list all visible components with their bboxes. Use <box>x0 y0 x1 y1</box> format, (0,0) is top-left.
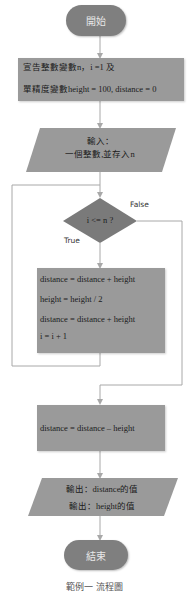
loop-line-2: height = height / 2 <box>40 294 162 305</box>
end-label: 結束 <box>86 548 106 563</box>
start-label: 開始 <box>86 13 106 28</box>
output-text: 輸出：distance的值 輸出：height的值 <box>40 482 164 513</box>
false-label: False <box>130 200 149 209</box>
loop-body-process-box: distance = distance + height height = he… <box>37 268 165 353</box>
input-text: 輸入： 一個整數,並存入n <box>40 135 160 161</box>
input-line-1: 輸入： <box>40 135 160 148</box>
output-line-2: 輸出：height的值 <box>40 499 164 513</box>
declare-process-box: 宣告整數變數n，i =1 及 單精度變數height = 100, distan… <box>18 58 184 101</box>
loop-line-1: distance = distance + height <box>40 274 162 285</box>
declare-line-1: 宣告整數變數n，i =1 及 <box>23 62 179 73</box>
input-line-2: 一個整數,並存入n <box>40 148 160 161</box>
true-label: True <box>64 236 80 245</box>
loop-line-3: distance = distance + height <box>40 314 162 325</box>
output-line-1: 輸出：distance的值 <box>40 482 164 496</box>
after-loop-line-1: distance = distance – height <box>40 423 135 434</box>
after-loop-process-box: distance = distance – height <box>37 405 165 451</box>
decision-condition: i <= n ? <box>70 215 130 225</box>
declare-line-2: 單精度變數height = 100, distance = 0 <box>23 84 179 95</box>
start-terminal: 開始 <box>66 5 126 36</box>
figure-caption: 範例一 流程圖 <box>0 580 189 593</box>
end-terminal: 結束 <box>64 540 128 570</box>
loop-line-4: i = i + 1 <box>40 331 162 342</box>
